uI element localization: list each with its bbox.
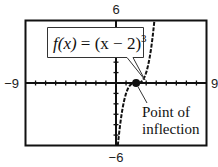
inflection-point-marker: [132, 79, 140, 87]
annotation-line-2: inflection: [142, 121, 200, 137]
xmax-label: 9: [211, 76, 218, 91]
graphing-calculator-plot: 6 −6 −9 9 f(x) = (x − 2)3 Point of infle…: [0, 0, 218, 167]
function-label: f(x) = (x − 2)3: [53, 32, 147, 53]
ymin-label: −6: [109, 150, 124, 165]
ymax-label: 6: [112, 2, 119, 17]
function-label-callout: f(x) = (x − 2)3: [48, 28, 148, 81]
annotation-line-1: Point of: [142, 104, 190, 120]
inflection-pointer-line: [138, 87, 147, 103]
xmin-label: −9: [4, 76, 19, 91]
